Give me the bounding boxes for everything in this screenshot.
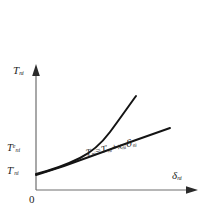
y-tick-lower-subscript: ni [14,170,18,176]
x-axis-label: δni [172,170,182,182]
y-tick-label-lower: T′ni [7,166,19,177]
y-axis-label-subscript: ni [19,69,24,76]
plot-canvas [0,0,211,218]
y-axis-arrow-icon [32,64,40,76]
x-axis-label-subscript: ni [177,174,182,181]
nonlinear-response-curve [36,96,136,174]
y-tick-label-upper: Teni [7,143,20,154]
x-axis-arrow-icon [186,186,198,193]
y-tick-upper-subscript: ni [16,147,20,153]
figure-container: Tni δni Teni T′ni 0 Tni=T′ni+xniδni [0,0,211,218]
origin-label: 0 [29,194,35,205]
y-axis-label: Tni [13,65,24,77]
